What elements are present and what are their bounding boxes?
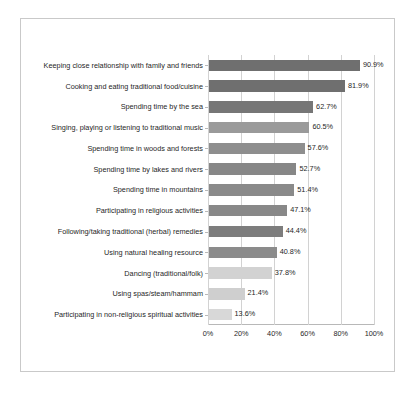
category-label: Using natural healing resource xyxy=(104,248,206,257)
bar-value-label: 51.4% xyxy=(297,183,318,197)
category-label-row: Following/taking traditional (herbal) re… xyxy=(25,221,206,242)
bar-row: 21.4% xyxy=(208,283,374,304)
category-label-row: Dancing (traditional/folk) xyxy=(25,263,206,284)
bar[interactable] xyxy=(209,143,305,155)
category-tick-mark xyxy=(205,294,208,295)
bar-row: 44.4% xyxy=(208,221,374,242)
category-tick-mark xyxy=(205,107,208,108)
bar-row: 62.7% xyxy=(208,97,374,118)
bar-row: 52.7% xyxy=(208,159,374,180)
gridline-100pct xyxy=(374,55,375,325)
bar-value-label: 47.1% xyxy=(290,203,311,217)
category-label: Spending time in woods and forests xyxy=(87,144,206,153)
x-tick-label: 40% xyxy=(267,328,282,339)
category-label: Singing, playing or listening to traditi… xyxy=(51,123,206,132)
category-tick-mark xyxy=(205,65,208,66)
category-tick-mark xyxy=(205,252,208,253)
category-label-row: Spending time by lakes and rivers xyxy=(25,159,206,180)
x-tick-label: 60% xyxy=(300,328,315,339)
category-label: Using spas/steam/hammam xyxy=(113,289,206,298)
figure-frame: Keeping close relationship with family a… xyxy=(20,18,395,372)
category-tick-mark xyxy=(205,211,208,212)
category-tick-mark xyxy=(205,128,208,129)
category-label: Keeping close relationship with family a… xyxy=(44,61,206,70)
bar[interactable] xyxy=(209,205,287,217)
category-label: Spending time in mountains xyxy=(113,185,206,194)
bar-row: 47.1% xyxy=(208,200,374,221)
bar-value-label: 13.6% xyxy=(235,307,256,321)
bar[interactable] xyxy=(209,60,360,72)
category-tick-mark xyxy=(205,232,208,233)
bar-value-label: 40.8% xyxy=(280,245,301,259)
category-tick-mark xyxy=(205,190,208,191)
bar-value-label: 57.6% xyxy=(308,141,329,155)
x-tick-label: 20% xyxy=(234,328,249,339)
category-label: Dancing (traditional/folk) xyxy=(124,269,206,278)
category-label: Following/taking traditional (herbal) re… xyxy=(58,227,206,236)
bar-row: 57.6% xyxy=(208,138,374,159)
category-label-row: Spending time by the sea xyxy=(25,97,206,118)
bar-value-label: 81.9% xyxy=(348,79,369,93)
bar[interactable] xyxy=(209,184,294,196)
category-label: Spending time by the sea xyxy=(121,102,206,111)
bar-row: 40.8% xyxy=(208,242,374,263)
bar-row: 13.6% xyxy=(208,304,374,325)
bar[interactable] xyxy=(209,226,283,238)
category-tick-mark xyxy=(205,273,208,274)
bar[interactable] xyxy=(209,80,345,92)
bar-row: 81.9% xyxy=(208,76,374,97)
bar-value-label: 62.7% xyxy=(316,100,337,114)
bar-series: 90.9%81.9%62.7%60.5%57.6%52.7%51.4%47.1%… xyxy=(208,55,374,325)
bar-value-label: 44.4% xyxy=(286,224,307,238)
category-label: Participating in religious activities xyxy=(96,206,206,215)
bar[interactable] xyxy=(209,288,245,300)
bar-row: 37.8% xyxy=(208,263,374,284)
category-label-row: Participating in religious activities xyxy=(25,200,206,221)
category-label: Spending time by lakes and rivers xyxy=(93,165,206,174)
category-label: Participating in non-religious spiritual… xyxy=(54,310,206,319)
bar-value-label: 90.9% xyxy=(363,58,384,72)
bar[interactable] xyxy=(209,247,277,259)
bar[interactable] xyxy=(209,122,309,134)
bar[interactable] xyxy=(209,267,272,279)
category-tick-mark xyxy=(205,148,208,149)
category-tick-mark xyxy=(205,86,208,87)
category-axis-labels: Keeping close relationship with family a… xyxy=(25,55,206,325)
category-label-row: Spending time in mountains xyxy=(25,180,206,201)
x-tick-label: 0% xyxy=(203,328,214,339)
bar-value-label: 52.7% xyxy=(299,162,320,176)
bar-row: 60.5% xyxy=(208,117,374,138)
bar[interactable] xyxy=(209,101,313,113)
category-label-row: Keeping close relationship with family a… xyxy=(25,55,206,76)
bar-value-label: 37.8% xyxy=(275,266,296,280)
bar[interactable] xyxy=(209,163,296,175)
bar-value-label: 60.5% xyxy=(312,120,333,134)
x-tick-label: 100% xyxy=(365,328,384,339)
category-label-row: Singing, playing or listening to traditi… xyxy=(25,117,206,138)
bar-value-label: 21.4% xyxy=(248,286,269,300)
plot-region: 90.9%81.9%62.7%60.5%57.6%52.7%51.4%47.1%… xyxy=(208,55,374,325)
bar-row: 51.4% xyxy=(208,180,374,201)
horizontal-bar-chart: Keeping close relationship with family a… xyxy=(21,19,396,373)
category-label-row: Participating in non-religious spiritual… xyxy=(25,304,206,325)
bar-row: 90.9% xyxy=(208,55,374,76)
category-label-row: Using spas/steam/hammam xyxy=(25,283,206,304)
category-label: Cooking and eating traditional food/cuis… xyxy=(65,82,206,91)
category-tick-mark xyxy=(205,315,208,316)
category-label-row: Using natural healing resource xyxy=(25,242,206,263)
category-label-row: Spending time in woods and forests xyxy=(25,138,206,159)
x-axis-tick-labels: 0%20%40%60%80%100% xyxy=(208,328,374,342)
category-tick-mark xyxy=(205,169,208,170)
x-tick-label: 80% xyxy=(333,328,348,339)
bar[interactable] xyxy=(209,309,232,321)
category-label-row: Cooking and eating traditional food/cuis… xyxy=(25,76,206,97)
